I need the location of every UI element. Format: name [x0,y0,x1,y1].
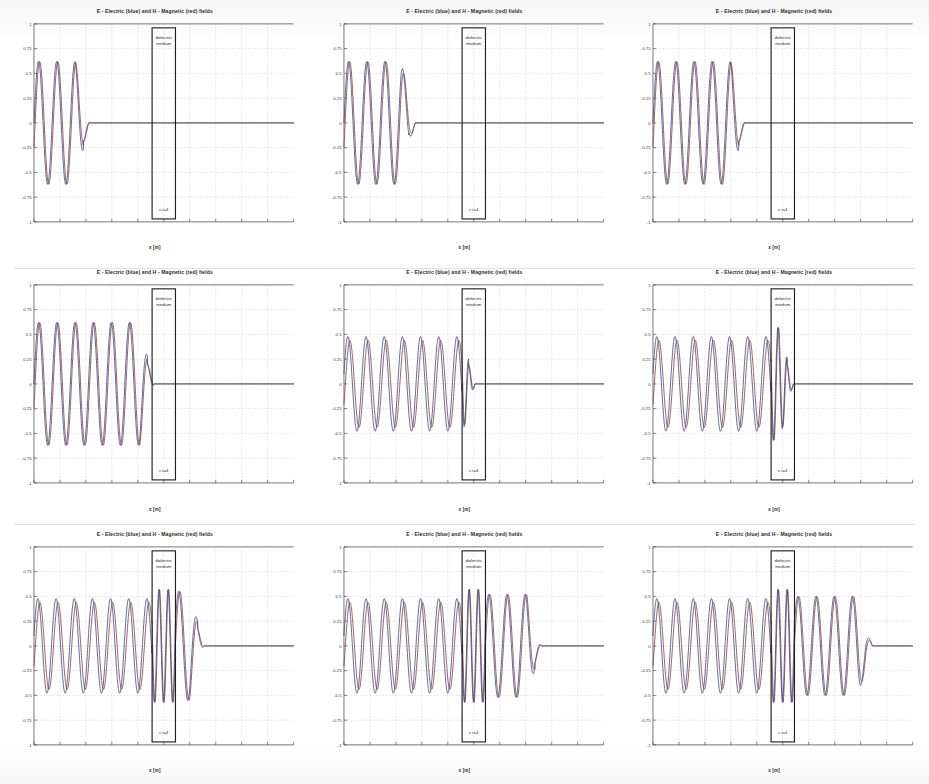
dielectric-epsilon-label: ε r=4 [159,730,169,735]
dielectric-label-line1: dielectric [156,296,172,301]
plot-title: E - Electric (blue) and H - Magnetic (re… [627,269,921,276]
y-tick-label: -0.5 [643,170,651,175]
y-tick-label: -0.75 [331,456,341,461]
plot-area: E - Electric (blue) and H - Magnetic (re… [318,529,612,774]
y-axis-ticks: 10.750.50.250-0.25-0.5-0.75-1 [641,283,656,486]
y-tick-label: -0.75 [641,717,651,722]
axes: 10.750.50.250-0.25-0.5-0.75-1dielectricm… [8,279,302,512]
plot-area: E - Electric (blue) and H - Magnetic (re… [627,529,921,774]
y-tick-label: -1 [647,481,651,486]
dielectric-label-line2: medium [156,303,171,308]
y-tick-label: -0.75 [22,717,32,722]
y-tick-label: -1 [337,742,341,747]
y-tick-label: -0.25 [641,145,651,150]
y-tick-label: 0 [29,643,32,648]
y-tick-label: 0.5 [26,71,33,76]
dielectric-label-line2: medium [156,42,171,47]
y-tick-label: -0.5 [24,693,32,698]
y-tick-label: 0 [339,121,342,126]
y-tick-label: 0.5 [26,332,33,337]
y-tick-label: -0.5 [334,431,342,436]
x-axis-label: x [m] [318,507,612,512]
axes: 10.750.50.250-0.25-0.5-0.75-1dielectricm… [627,18,921,251]
y-tick-label: 0.5 [645,332,652,337]
y-tick-label: 0.25 [23,618,32,623]
y-tick-label: 0.25 [333,618,342,623]
wave-plot-panel-1: E - Electric (blue) and H - Magnetic (re… [0,0,310,261]
y-tick-label: 0.5 [645,71,652,76]
y-tick-label: -1 [337,481,341,486]
axes: 10.750.50.250-0.25-0.5-0.75-1dielectricm… [318,541,612,774]
y-tick-label: 0.75 [642,569,651,574]
plot-area: E - Electric (blue) and H - Magnetic (re… [318,267,612,512]
plot-svg: 10.750.50.250-0.25-0.5-0.75-1dielectricm… [318,18,612,251]
y-tick-label: 0 [29,382,32,387]
y-tick-label: -0.75 [22,195,32,200]
x-axis-label: x [m] [8,507,302,512]
y-tick-label: -0.25 [641,407,651,412]
y-tick-label: -0.5 [643,431,651,436]
dielectric-epsilon-label: ε r=4 [159,468,169,473]
y-tick-label: -1 [647,220,651,225]
y-tick-label: -0.25 [641,668,651,673]
dielectric-label-line1: dielectric [775,557,791,562]
axes: 10.750.50.250-0.25-0.5-0.75-1dielectricm… [8,18,302,251]
x-axis-label: x [m] [8,768,302,773]
y-tick-label: -0.25 [331,668,341,673]
y-tick-label: 0.25 [642,357,651,362]
y-tick-label: 1 [648,283,651,288]
y-tick-label: 0.5 [335,71,342,76]
y-tick-label: 0.75 [23,308,32,313]
plot-area: E - Electric (blue) and H - Magnetic (re… [8,267,302,512]
plot-title: E - Electric (blue) and H - Magnetic (re… [318,530,612,537]
y-tick-label: 0 [29,121,32,126]
dielectric-epsilon-label: ε r=4 [778,468,788,473]
dielectric-label-line1: dielectric [465,557,481,562]
dielectric-label-line1: dielectric [465,35,481,40]
y-tick-label: 0.25 [642,618,651,623]
y-tick-label: -0.25 [22,407,32,412]
dielectric-label-line2: medium [776,303,791,308]
y-tick-label: 0.5 [26,594,33,599]
figure-page: E - Electric (blue) and H - Magnetic (re… [0,0,929,784]
y-tick-label: 0 [339,643,342,648]
y-axis-ticks: 10.750.50.250-0.25-0.5-0.75-1 [331,544,346,747]
plot-svg: 10.750.50.250-0.25-0.5-0.75-1dielectricm… [8,18,302,251]
y-tick-label: -0.75 [641,456,651,461]
wave-plot-panel-3: E - Electric (blue) and H - Magnetic (re… [619,0,929,261]
dielectric-label-line2: medium [156,564,171,569]
y-tick-label: 0.75 [23,569,32,574]
wave-plot-panel-2: E - Electric (blue) and H - Magnetic (re… [310,0,620,261]
y-tick-label: 0.25 [23,357,32,362]
y-tick-label: 0 [339,382,342,387]
y-tick-label: -0.75 [22,456,32,461]
wave-plot-panel-9: E - Electric (blue) and H - Magnetic (re… [619,523,929,784]
plot-svg: 10.750.50.250-0.25-0.5-0.75-1dielectricm… [318,541,612,774]
wave-plot-panel-6: E - Electric (blue) and H - Magnetic (re… [619,261,929,522]
wave-plot-panel-7: E - Electric (blue) and H - Magnetic (re… [0,523,310,784]
y-tick-label: -0.5 [643,693,651,698]
x-axis-label: x [m] [318,245,612,250]
dielectric-label-line1: dielectric [465,296,481,301]
plot-area: E - Electric (blue) and H - Magnetic (re… [318,6,612,251]
wave-plot-panel-5: E - Electric (blue) and H - Magnetic (re… [310,261,620,522]
axes: 10.750.50.250-0.25-0.5-0.75-1dielectricm… [627,541,921,774]
y-tick-label: -0.5 [334,693,342,698]
y-tick-label: 0.5 [335,332,342,337]
dielectric-label-line2: medium [776,42,791,47]
y-tick-label: 0 [648,121,651,126]
y-tick-label: -0.5 [24,170,32,175]
y-tick-label: 1 [648,544,651,549]
plot-area: E - Electric (blue) and H - Magnetic (re… [8,529,302,774]
dielectric-label-line2: medium [466,564,481,569]
dielectric-label-line2: medium [466,42,481,47]
y-tick-label: 0.75 [23,46,32,51]
plot-title: E - Electric (blue) and H - Magnetic (re… [8,269,302,276]
plot-title: E - Electric (blue) and H - Magnetic (re… [318,269,612,276]
dielectric-label-line1: dielectric [775,35,791,40]
y-tick-label: -0.5 [334,170,342,175]
dielectric-label-line2: medium [466,303,481,308]
y-tick-label: -1 [28,220,32,225]
y-tick-label: 1 [29,22,32,27]
dielectric-epsilon-label: ε r=4 [778,207,788,212]
